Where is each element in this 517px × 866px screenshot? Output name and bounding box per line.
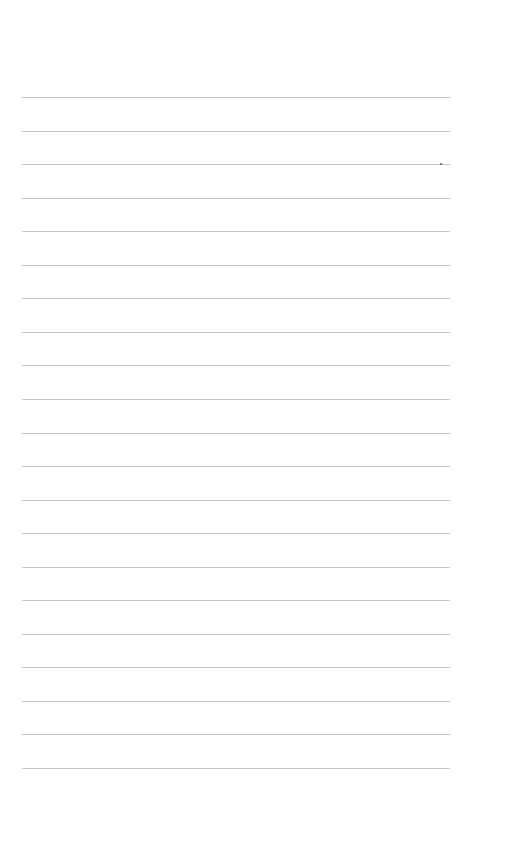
ruled-line [22,701,450,702]
ink-speck [440,163,442,165]
ruled-line [22,567,450,568]
ruled-line [22,500,450,501]
ruled-line [22,768,450,769]
ruled-line [22,600,450,601]
ruled-line [22,533,450,534]
ruled-line [22,265,450,266]
ruled-line [22,734,450,735]
ruled-line [22,365,450,366]
ruled-line [22,231,450,232]
lined-page [0,0,517,866]
ruled-line [22,667,450,668]
ruled-line [22,466,450,467]
ruled-line [22,634,450,635]
ruled-line [22,399,450,400]
ruled-line [22,131,450,132]
ruled-line [22,433,450,434]
ruled-line [22,298,450,299]
ruled-line [22,332,450,333]
ruled-line [22,97,450,98]
ruled-line [22,198,450,199]
ruled-line [22,164,450,165]
